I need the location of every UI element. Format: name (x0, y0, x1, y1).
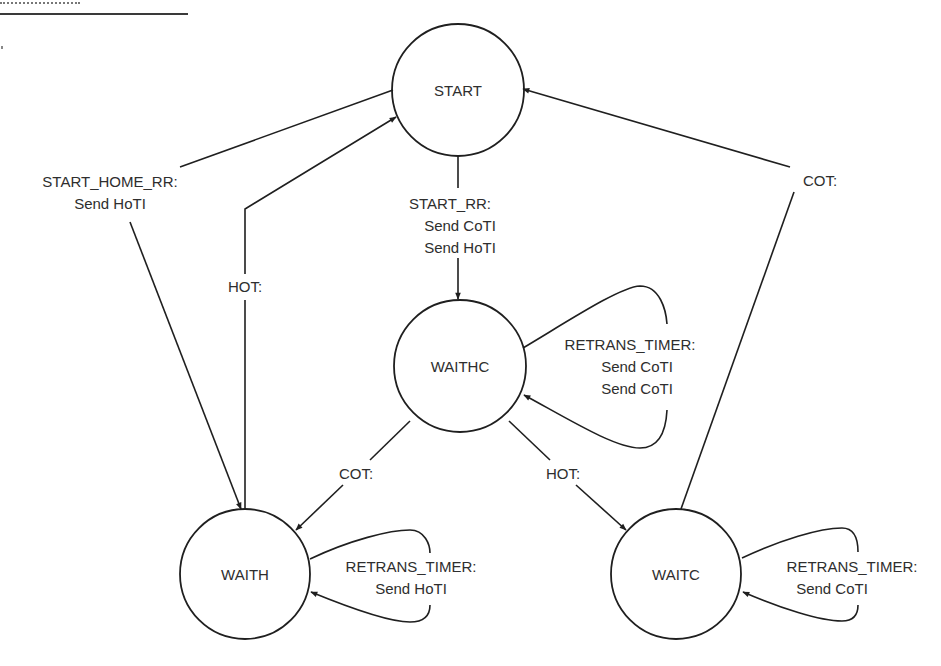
transition-hot-to-waitc: HOT: (509, 421, 626, 530)
state-diagram: START WAITHC WAITH WAITC START_HOME_RR: … (0, 0, 941, 666)
transition-label: RETRANS_TIMER: (787, 558, 918, 575)
transition-start-rr: START_RR: Send CoTI Send HoTI (409, 156, 496, 299)
transition-label: Send CoTI (601, 358, 673, 375)
transition-label: COT: (339, 465, 373, 482)
state-waith: WAITH (180, 509, 310, 639)
state-start-label: START (434, 82, 482, 99)
transition-label: RETRANS_TIMER: (565, 336, 696, 353)
transition-label: Send CoTI (601, 380, 673, 397)
transition-label: HOT: (546, 465, 580, 482)
transition-waitc-retrans: RETRANS_TIMER: Send CoTI (742, 528, 917, 621)
transition-label: Send HoTI (375, 580, 447, 597)
state-waitc: WAITC (611, 509, 741, 639)
transition-label: HOT: (228, 278, 262, 295)
transition-label: START_RR: (409, 195, 491, 212)
transition-label: START_HOME_RR: (42, 173, 177, 190)
transition-label: Send CoTI (424, 217, 496, 234)
transition-label: RETRANS_TIMER: (346, 558, 477, 575)
transition-start-home-rr: START_HOME_RR: Send HoTI (42, 90, 393, 509)
state-waithc: WAITHC (394, 300, 526, 432)
state-waith-label: WAITH (221, 566, 269, 583)
transition-waith-retrans: RETRANS_TIMER: Send HoTI (310, 530, 476, 622)
state-waithc-label: WAITHC (431, 358, 490, 375)
state-waitc-label: WAITC (652, 566, 700, 583)
transition-cot-to-start: COT: (523, 89, 837, 509)
transition-label: COT: (803, 172, 837, 189)
state-start: START (392, 24, 524, 156)
transition-hot-to-start: HOT: (228, 117, 396, 509)
transition-label: Send HoTI (424, 239, 496, 256)
transition-waithc-retrans: RETRANS_TIMER: Send CoTI Send CoTI (523, 286, 695, 448)
transition-label: Send CoTI (796, 580, 868, 597)
transition-label: Send HoTI (74, 195, 146, 212)
transition-cot-to-waith: COT: (296, 421, 410, 530)
